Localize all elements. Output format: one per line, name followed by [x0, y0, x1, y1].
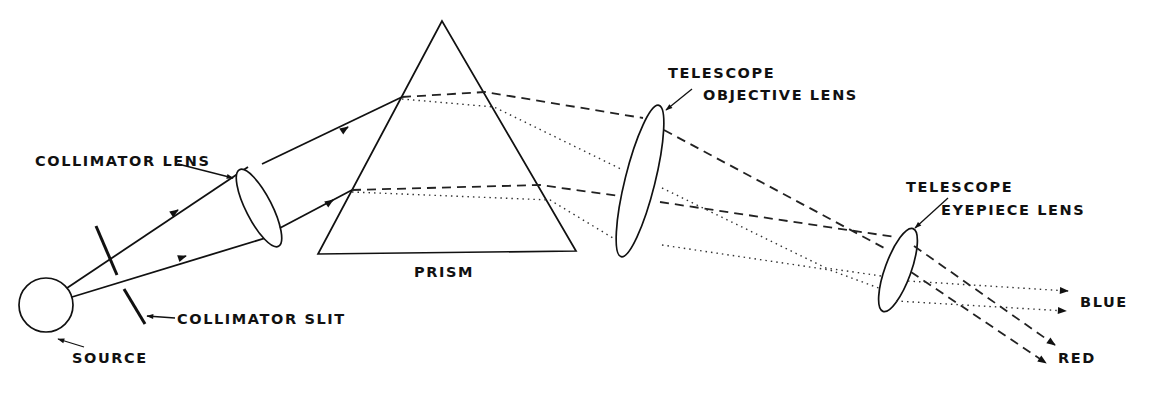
telescope-objective-lens: [607, 102, 674, 261]
label-collimator-lens: COLLIMATOR LENS: [35, 153, 211, 169]
objective-lens-pointer-arrow-icon: [666, 89, 692, 110]
blue-exit-ray-1: [908, 281, 1068, 291]
ray-direction-arrow-icon: [330, 200, 333, 202]
blue-ray-upper-telescope: [662, 188, 895, 278]
objective-lens-shape: [607, 102, 674, 261]
label-eyepiece-line1: TELESCOPE: [906, 179, 1013, 195]
label-source: SOURCE: [72, 350, 148, 366]
red-ray-lower-telescope: [660, 202, 895, 237]
label-objective-line2: OBJECTIVE LENS: [703, 87, 858, 103]
label-objective-line1: TELESCOPE: [668, 65, 775, 81]
label-eyepiece-line2: EYEPIECE LENS: [941, 202, 1085, 218]
blue-exit-ray-2: [896, 301, 1066, 311]
ray-direction-arrow-icon: [345, 127, 348, 129]
telescope-eyepiece-lens: [871, 224, 926, 316]
ray-direction-arrow-icon: [175, 210, 178, 212]
collimator-lens-shape: [228, 164, 290, 252]
eyepiece-lens-shape: [871, 224, 926, 316]
label-prism: PRISM: [414, 264, 474, 280]
upper-source-ray: [67, 167, 248, 288]
source-circle-icon: [19, 278, 73, 332]
slit-upper-jaw: [96, 226, 117, 275]
labels: COLLIMATOR LENS COLLIMATOR SLIT SOURCE P…: [35, 65, 1128, 366]
prism: [318, 21, 576, 254]
label-collimator-slit: COLLIMATOR SLIT: [177, 311, 346, 327]
prism-triangle: [318, 21, 576, 254]
spectroscope-diagram: COLLIMATOR LENS COLLIMATOR SLIT SOURCE P…: [0, 0, 1152, 397]
label-red: RED: [1058, 350, 1096, 366]
light-source: [19, 278, 73, 332]
red-ray-upper-telescope: [664, 130, 888, 250]
label-blue: BLUE: [1080, 294, 1128, 310]
slit-lower-jaw: [124, 289, 145, 324]
red-exit-ray-1: [914, 246, 1055, 345]
figure-caption-clipped: [100, 386, 1060, 397]
source-pointer-arrow-icon: [58, 339, 84, 347]
ray-direction-arrow-icon: [183, 256, 186, 257]
lower-source-ray: [72, 236, 272, 297]
collimator-slit-pointer-arrow-icon: [147, 316, 175, 318]
blue-ray-lower-telescope: [662, 245, 884, 290]
collimator-lens: [228, 164, 290, 252]
red-exit-ray-2: [911, 272, 1046, 363]
exit-rays: [896, 246, 1068, 363]
